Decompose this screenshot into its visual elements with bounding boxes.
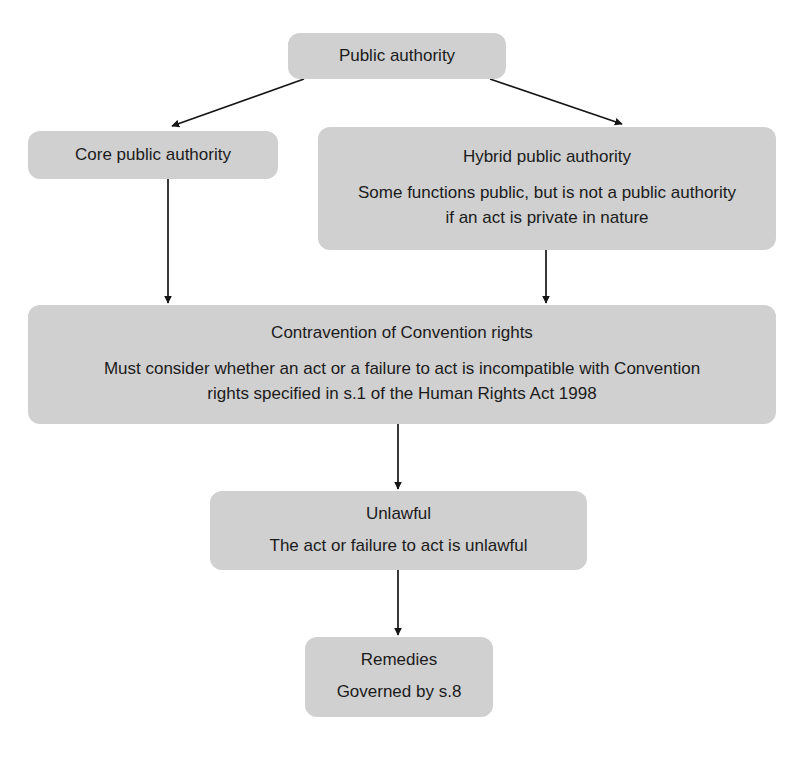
node-remedies[interactable]: Remedies Governed by s.8 [305,637,493,717]
node-contravention-body: Must consider whether an act or a failur… [97,357,707,406]
node-contravention-of-convention-rights[interactable]: Contravention of Convention rights Must … [28,305,776,424]
node-unlawful-body: The act or failure to act is unlawful [270,534,528,559]
node-unlawful[interactable]: Unlawful The act or failure to act is un… [210,491,587,570]
flowchart-canvas: Public authority Core public authority H… [0,0,808,758]
node-public-authority-title: Public authority [339,45,455,66]
arrow-public-authority-to-core [172,79,304,126]
node-public-authority[interactable]: Public authority [288,33,506,79]
node-hybrid-public-authority-body: Some functions public, but is not a publ… [352,181,742,230]
node-remedies-title: Remedies [361,649,438,670]
node-contravention-title: Contravention of Convention rights [271,322,533,343]
node-remedies-body: Governed by s.8 [337,680,462,705]
node-hybrid-public-authority[interactable]: Hybrid public authority Some functions p… [318,127,776,250]
arrow-public-authority-to-hybrid [490,79,622,124]
node-core-public-authority-title: Core public authority [75,144,231,165]
node-core-public-authority[interactable]: Core public authority [28,131,278,179]
node-unlawful-title: Unlawful [366,503,431,524]
node-hybrid-public-authority-title: Hybrid public authority [463,146,631,167]
